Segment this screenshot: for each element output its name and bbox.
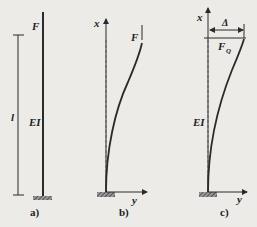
caption-c: c): [220, 206, 229, 219]
force-label-b: F: [130, 31, 139, 43]
force-label-a: F: [31, 20, 40, 32]
stiffness-label-c: EI: [192, 116, 205, 128]
y-axis-label-c: y: [235, 193, 242, 205]
length-label: l: [11, 111, 15, 123]
y-axis-label-b: y: [130, 194, 137, 206]
x-axis-label-b: x: [93, 17, 100, 29]
force-subscript-c: Q: [226, 47, 231, 55]
stiffness-label-a: EI: [28, 116, 41, 128]
caption-b: b): [119, 206, 129, 219]
deflected-column-b: [106, 43, 142, 192]
column-buckling-figure: F EI l a) x F y b) x Δ F Q EI y c): [0, 0, 257, 227]
deflected-column-c: [208, 39, 244, 192]
force-label-c: F: [217, 40, 226, 52]
panel-c: x Δ F Q EI y c): [192, 8, 247, 219]
fixed-support-c: [199, 192, 217, 197]
fixed-support-b: [97, 192, 115, 197]
caption-a: a): [30, 206, 40, 219]
fixed-support-a: [33, 196, 52, 200]
x-axis-label-c: x: [196, 11, 203, 23]
panel-a: F EI l a): [11, 12, 52, 219]
deflection-label: Δ: [221, 17, 228, 28]
panel-b: x F y b): [93, 17, 147, 219]
